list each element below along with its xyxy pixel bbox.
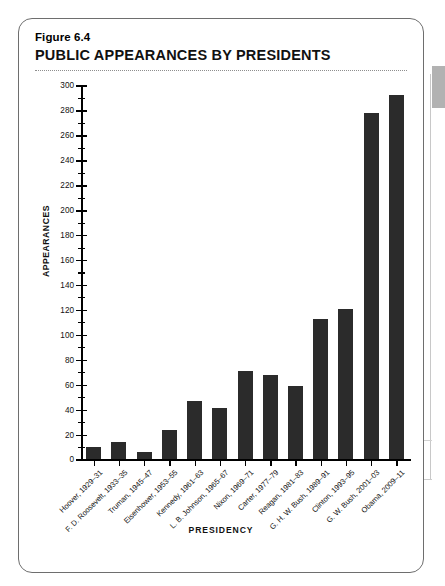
- x-axis-category-label: Hoover, 1929–31: [57, 468, 104, 515]
- x-axis-tick: [295, 461, 296, 466]
- x-axis-tick: [195, 461, 196, 466]
- bar: [137, 452, 152, 459]
- bar-chart: APPEARANCES 0204060801001201401601802002…: [35, 77, 407, 547]
- page-side-tab: [432, 66, 445, 108]
- y-axis-tick-label: 220: [60, 181, 74, 190]
- x-axis-tick: [270, 461, 271, 466]
- y-axis-tick-label: 280: [60, 106, 74, 115]
- bar: [338, 309, 353, 460]
- x-axis-tick: [144, 461, 145, 466]
- x-axis-tick: [94, 461, 95, 466]
- y-axis-tick-label: 0: [69, 455, 74, 464]
- bar: [313, 319, 328, 460]
- figure-number: Figure 6.4: [35, 31, 407, 45]
- plot-area: [81, 85, 409, 459]
- page-right-rule: [430, 74, 431, 480]
- bar: [238, 371, 253, 460]
- x-axis-tick: [169, 461, 170, 466]
- y-axis-tick-label: 260: [60, 131, 74, 140]
- y-axis-tick-label: 80: [65, 355, 74, 364]
- page-root: Figure 6.4 PUBLIC APPEARANCES BY PRESIDE…: [0, 0, 445, 586]
- x-axis-tick: [245, 461, 246, 466]
- bar: [389, 95, 404, 459]
- bar: [288, 386, 303, 460]
- y-axis-tick-label: 180: [60, 231, 74, 240]
- x-axis-tick: [371, 461, 372, 466]
- bar: [263, 375, 278, 460]
- y-axis-tick-label: 20: [65, 430, 74, 439]
- figure-card-inner: Figure 6.4 PUBLIC APPEARANCES BY PRESIDE…: [19, 19, 423, 572]
- x-axis-tick: [396, 461, 397, 466]
- figure-title: PUBLIC APPEARANCES BY PRESIDENTS: [35, 47, 407, 64]
- y-axis-tick-label: 140: [60, 280, 74, 289]
- y-axis-tick-label: 300: [60, 81, 74, 90]
- x-axis-tick: [119, 461, 120, 466]
- x-axis-tick: [220, 461, 221, 466]
- y-axis-tick-label: 160: [60, 256, 74, 265]
- y-axis-title: APPEARANCES: [41, 206, 51, 278]
- y-axis-tick-label: 200: [60, 206, 74, 215]
- bar: [111, 442, 126, 459]
- y-axis-tick-label: 60: [65, 380, 74, 389]
- bar: [364, 113, 379, 460]
- x-tick-layer: Hoover, 1929–31F. D. Roosevelt, 1933–35T…: [81, 461, 411, 551]
- y-axis-tick-label: 120: [60, 305, 74, 314]
- title-divider: [35, 70, 407, 71]
- x-axis-tick: [346, 461, 347, 466]
- bar: [162, 430, 177, 460]
- bar: [86, 447, 101, 459]
- x-axis-tick: [321, 461, 322, 466]
- y-axis-tick-label: 240: [60, 156, 74, 165]
- x-axis-title: PRESIDENCY: [35, 525, 407, 535]
- figure-card: Figure 6.4 PUBLIC APPEARANCES BY PRESIDE…: [18, 18, 424, 573]
- bar: [187, 401, 202, 460]
- bar: [212, 408, 227, 459]
- y-axis-tick-label: 100: [60, 330, 74, 339]
- y-axis-tick-label: 40: [65, 405, 74, 414]
